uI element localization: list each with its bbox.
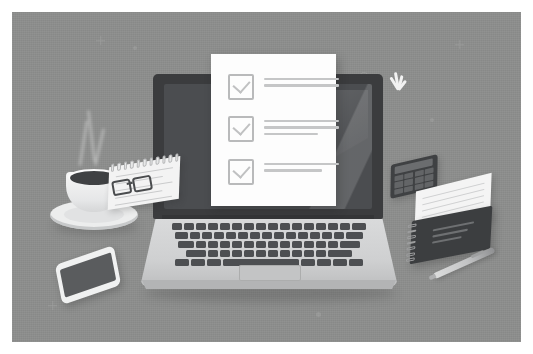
keyboard-key[interactable]: [226, 232, 236, 239]
keyboard-key[interactable]: [256, 250, 266, 257]
text-line: [264, 169, 322, 171]
keyboard-key[interactable]: [298, 232, 308, 239]
sparkle-icon: [380, 60, 416, 94]
keyboard-key[interactable]: [328, 223, 338, 230]
text-line: [264, 163, 339, 165]
keyboard-row[interactable]: [172, 223, 366, 230]
keyboard-key[interactable]: [316, 241, 326, 248]
keyboard-key[interactable]: [232, 223, 242, 230]
keyboard-key[interactable]: [208, 241, 218, 248]
keyboard-key[interactable]: [178, 241, 194, 248]
keyboard-key[interactable]: [349, 259, 363, 266]
spiral-coil: [406, 252, 415, 257]
spiral-coil: [406, 257, 415, 262]
keyboard-key[interactable]: [334, 232, 344, 239]
keyboard-key[interactable]: [202, 232, 212, 239]
keyboard-key[interactable]: [191, 259, 205, 266]
keyboard-key[interactable]: [292, 223, 302, 230]
spiral-coil: [162, 155, 166, 164]
keyboard-key[interactable]: [316, 223, 326, 230]
checklist-item[interactable]: [228, 116, 339, 142]
keyboard-key[interactable]: [208, 223, 218, 230]
keyboard-key[interactable]: [280, 223, 290, 230]
spiral-coil: [136, 159, 140, 168]
keyboard-key[interactable]: [340, 223, 350, 230]
keyboard-key[interactable]: [292, 241, 302, 248]
keyboard-key[interactable]: [333, 259, 347, 266]
spiral-coil: [124, 161, 128, 170]
keyboard-key[interactable]: [268, 250, 278, 257]
keyboard-key[interactable]: [262, 232, 272, 239]
keyboard-key[interactable]: [304, 223, 314, 230]
keyboard-key[interactable]: [172, 223, 182, 230]
spiral-coil: [156, 156, 160, 165]
keyboard-key[interactable]: [317, 259, 331, 266]
checklist-item[interactable]: [228, 159, 339, 185]
keyboard-key[interactable]: [280, 250, 290, 257]
keyboard-key[interactable]: [304, 250, 314, 257]
keyboard-key[interactable]: [232, 241, 242, 248]
keyboard-key[interactable]: [328, 241, 338, 248]
keyboard-key[interactable]: [196, 223, 206, 230]
keyboard-key[interactable]: [304, 241, 314, 248]
checklist-document: [211, 54, 336, 206]
keyboard-key[interactable]: [340, 241, 360, 248]
keyboard-key[interactable]: [196, 241, 206, 248]
checklist-item[interactable]: [228, 74, 339, 100]
keyboard-key[interactable]: [310, 232, 320, 239]
check-icon: [232, 160, 250, 179]
keyboard-key[interactable]: [207, 259, 221, 266]
calculator-key[interactable]: [394, 188, 403, 195]
keyboard-key[interactable]: [280, 241, 290, 248]
keyboard-key[interactable]: [316, 250, 326, 257]
keyboard-key[interactable]: [274, 232, 284, 239]
keyboard-key[interactable]: [256, 223, 266, 230]
keyboard-key[interactable]: [256, 241, 266, 248]
keyboard-key[interactable]: [268, 223, 278, 230]
checklist-item-text-lines: [264, 116, 339, 135]
keyboard-key[interactable]: [232, 250, 242, 257]
keyboard-row[interactable]: [186, 250, 352, 257]
keyboard-key[interactable]: [175, 259, 189, 266]
keyboard-key[interactable]: [220, 223, 230, 230]
keyboard-key[interactable]: [214, 232, 224, 239]
keyboard-key[interactable]: [268, 241, 278, 248]
keyboard-key[interactable]: [184, 223, 194, 230]
text-line: [264, 133, 318, 135]
laptop-keyboard[interactable]: [155, 223, 383, 263]
spiral-coil: [111, 163, 115, 172]
laptop-trackpad[interactable]: [239, 265, 301, 281]
keyboard-key[interactable]: [190, 232, 200, 239]
keyboard-key[interactable]: [220, 250, 230, 257]
keyboard-row[interactable]: [178, 241, 360, 248]
keyboard-key[interactable]: [250, 232, 260, 239]
keyboard-key[interactable]: [244, 223, 254, 230]
illustration-canvas: [0, 0, 533, 354]
keyboard-key[interactable]: [244, 250, 254, 257]
keyboard-key[interactable]: [301, 259, 315, 266]
spiral-coil: [175, 153, 179, 162]
keyboard-key[interactable]: [244, 241, 254, 248]
keyboard-key[interactable]: [286, 232, 296, 239]
keyboard-key[interactable]: [186, 250, 206, 257]
checkbox[interactable]: [228, 74, 254, 100]
checklist-item-text-lines: [264, 159, 339, 172]
spiral-coil: [407, 235, 416, 240]
checklist-item-text-lines: [264, 74, 339, 87]
checkbox[interactable]: [228, 159, 254, 185]
keyboard-key[interactable]: [346, 232, 363, 239]
calculator-key[interactable]: [404, 185, 413, 192]
keyboard-row[interactable]: [175, 232, 363, 239]
notebook-cover-line: [433, 221, 474, 231]
spiral-coil: [117, 162, 121, 171]
text-line: [264, 126, 339, 128]
keyboard-key[interactable]: [208, 250, 218, 257]
keyboard-key[interactable]: [352, 223, 366, 230]
keyboard-key[interactable]: [322, 232, 332, 239]
checkbox[interactable]: [228, 116, 254, 142]
keyboard-key[interactable]: [328, 250, 352, 257]
keyboard-key[interactable]: [175, 232, 188, 239]
keyboard-key[interactable]: [292, 250, 302, 257]
keyboard-key[interactable]: [238, 232, 248, 239]
keyboard-key[interactable]: [220, 241, 230, 248]
